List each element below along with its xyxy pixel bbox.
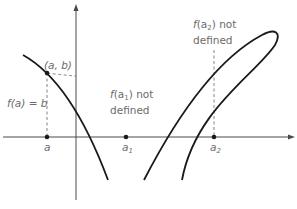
y-axis [74,4,79,200]
label-fa1-not-defined: f(a1) not defined [110,88,153,116]
label-x-a: a [44,141,50,153]
point-a-dot [45,135,50,140]
dashed-horizontal-b [47,73,76,76]
point-ab-dot [45,71,50,76]
curve-function [23,55,108,180]
label-x-a2: a2 [210,141,221,157]
function-definition-diagram: (a, b) f(a) = b a a1 a2 f(a1) not define… [0,0,297,209]
x-axis-arrow-icon [288,135,295,140]
point-a1-dot [124,135,129,140]
label-fa2-not-defined: f(a2) not defined [193,18,236,46]
label-point-ab: (a, b) [44,59,72,71]
curve-not-function [144,32,278,180]
y-axis-arrow-icon [74,4,79,11]
point-a2-dot [212,135,217,140]
label-x-a1: a1 [122,141,133,157]
label-fa-equals-b: f(a) = b [7,97,47,109]
